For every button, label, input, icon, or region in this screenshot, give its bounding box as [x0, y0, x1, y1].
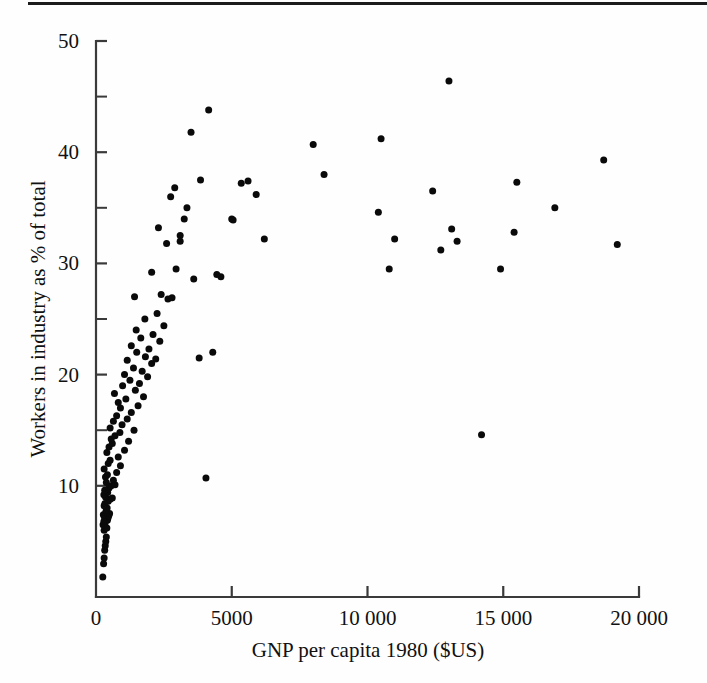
data-point [119, 421, 126, 428]
data-point [113, 469, 120, 476]
data-point [121, 371, 128, 378]
data-point [445, 78, 452, 85]
data-point [113, 412, 120, 419]
data-point [478, 431, 485, 438]
scatter-plot: 1020304050 0500010 00015 00020 000 GNP p… [0, 0, 707, 683]
data-point [437, 247, 444, 254]
data-point [163, 240, 170, 247]
data-point [133, 349, 140, 356]
data-point [378, 135, 385, 142]
data-point [454, 238, 461, 245]
data-point [136, 380, 143, 387]
x-tick-label: 0 [91, 606, 102, 630]
y-tick-label: 40 [58, 140, 79, 164]
data-point [109, 495, 116, 502]
data-point [125, 438, 132, 445]
data-point [197, 177, 204, 184]
data-point [124, 416, 131, 423]
data-point [181, 215, 188, 222]
data-point [111, 390, 118, 397]
y-tick-label: 10 [58, 474, 79, 498]
data-point [600, 156, 607, 163]
data-point [101, 466, 108, 473]
data-point [448, 225, 455, 232]
data-point [152, 356, 159, 363]
data-point [190, 275, 197, 282]
data-point [128, 342, 135, 349]
data-point [156, 338, 163, 345]
data-points-layer [99, 78, 620, 581]
x-axis-group: 0500010 00015 00020 000 [91, 586, 668, 630]
data-point [99, 573, 106, 580]
data-point [551, 204, 558, 211]
y-axis-group: 1020304050 [58, 29, 107, 597]
data-point [122, 396, 129, 403]
data-point [124, 357, 131, 364]
data-point [140, 393, 147, 400]
x-axis-title: GNP per capita 1980 ($US) [252, 638, 485, 662]
data-point [497, 265, 504, 272]
data-point [183, 204, 190, 211]
data-point [511, 229, 518, 236]
data-point [238, 180, 245, 187]
data-point [321, 171, 328, 178]
data-point [375, 209, 382, 216]
y-axis-tick-labels: 1020304050 [58, 29, 79, 498]
data-point [614, 241, 621, 248]
data-point [145, 346, 152, 353]
x-tick-label: 10 000 [339, 606, 397, 630]
figure-container: 1020304050 0500010 00015 00020 000 GNP p… [0, 0, 707, 683]
data-point [137, 334, 144, 341]
data-point [209, 349, 216, 356]
x-axis-major-ticks [232, 586, 639, 597]
data-point [144, 373, 151, 380]
data-point [131, 293, 138, 300]
data-point [121, 447, 128, 454]
data-point [110, 477, 117, 484]
data-point [167, 193, 174, 200]
data-point [188, 129, 195, 136]
data-point [148, 269, 155, 276]
data-point [116, 429, 123, 436]
data-point [213, 271, 220, 278]
data-point [117, 462, 124, 469]
data-point [261, 235, 268, 242]
data-point [115, 399, 122, 406]
y-axis-major-ticks [96, 41, 107, 486]
y-tick-label: 50 [58, 29, 79, 53]
data-point [135, 402, 142, 409]
data-point [130, 364, 137, 371]
data-point [158, 291, 165, 298]
data-point [391, 235, 398, 242]
data-point [386, 265, 393, 272]
data-point [126, 377, 133, 384]
data-point [310, 141, 317, 148]
data-point [119, 382, 126, 389]
data-point [429, 188, 436, 195]
data-point [139, 368, 146, 375]
data-point [253, 191, 260, 198]
y-axis-title: Workers in industry as % of total [26, 180, 50, 457]
data-point [177, 232, 184, 239]
data-point [150, 331, 157, 338]
x-tick-label: 15 000 [474, 606, 532, 630]
data-point [142, 353, 149, 360]
data-point [245, 178, 252, 185]
data-point [107, 424, 114, 431]
data-point [169, 294, 176, 301]
data-point [132, 387, 139, 394]
data-point [103, 533, 110, 540]
y-tick-label: 20 [58, 363, 79, 387]
data-point [154, 310, 161, 317]
data-point [115, 453, 122, 460]
data-point [513, 179, 520, 186]
data-point [131, 427, 138, 434]
data-point [171, 184, 178, 191]
data-point [196, 354, 203, 361]
data-point [133, 327, 140, 334]
x-axis-tick-labels: 0500010 00015 00020 000 [91, 606, 668, 630]
data-point [107, 457, 114, 464]
x-tick-label: 20 000 [610, 606, 668, 630]
x-tick-label: 5000 [211, 606, 253, 630]
data-point [141, 316, 148, 323]
